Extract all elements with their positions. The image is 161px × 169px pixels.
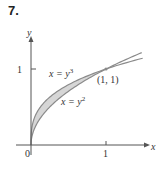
x-axis-label: x (150, 141, 156, 152)
y-axis-label: y (26, 27, 32, 38)
x-tick-label-0: 0 (25, 148, 30, 159)
intersection-point (104, 67, 107, 70)
x-axis-arrow-icon (144, 143, 150, 148)
y-tick-label-1: 1 (17, 64, 22, 75)
x-tick-label-1: 1 (103, 148, 108, 159)
shaded-region (31, 69, 106, 145)
curve-label-cubed: x = y3 (48, 67, 74, 79)
curve-label-squared: x = y2 (60, 95, 86, 107)
region-plot: x y 0 1 1 x = y3 x = y2 (1, 1) (0, 0, 161, 169)
intersection-label: (1, 1) (97, 74, 119, 86)
